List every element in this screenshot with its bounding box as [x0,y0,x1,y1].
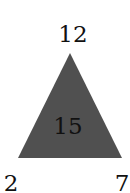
number-triangle-diagram: 12 15 2 7 [0,0,130,193]
top-number: 12 [58,21,87,47]
center-number: 15 [53,113,82,139]
diagram-canvas: 12 15 2 7 [0,0,130,193]
bottom-left-number: 2 [4,170,19,193]
triangle-shape [18,53,122,158]
bottom-right-number: 7 [115,170,130,193]
